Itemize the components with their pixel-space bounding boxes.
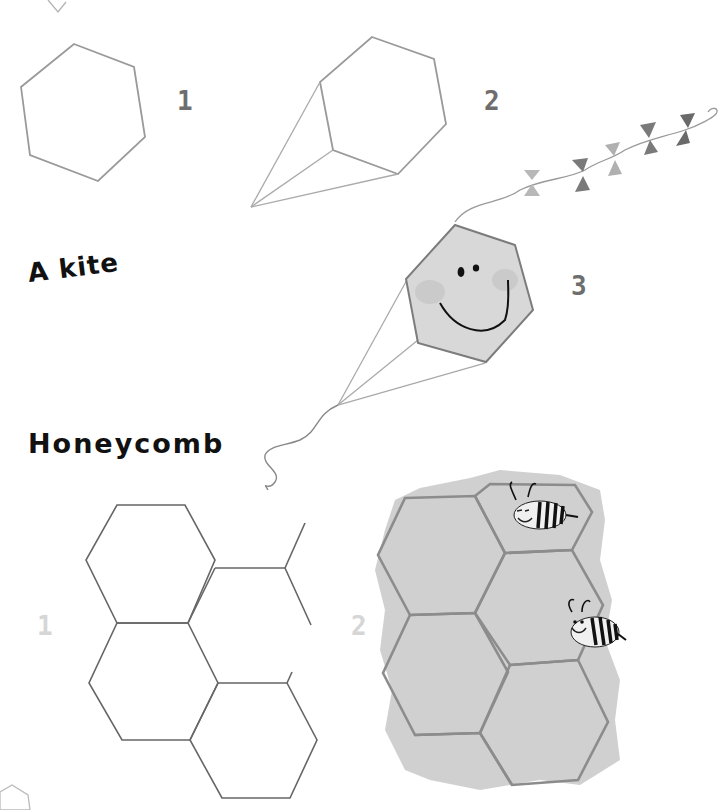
- partial-shape: [48, 0, 66, 12]
- honeycomb-step-1-number: 1: [37, 611, 53, 641]
- honeycomb-step2-watercolor: [375, 470, 626, 790]
- kite-step1-hexagon: [21, 44, 145, 181]
- kite-eye: [473, 264, 479, 271]
- honeycomb-step-2-number: 2: [351, 611, 367, 641]
- honeycomb-step1-grid: [86, 505, 317, 798]
- kite-step-2-number: 2: [484, 86, 500, 116]
- kite-eye: [458, 267, 465, 277]
- kite-step-3-number: 3: [571, 271, 587, 301]
- kite-step-1-number: 1: [177, 86, 193, 116]
- partial-hexagon: [0, 785, 30, 810]
- honeycomb-section-title: Honeycomb: [28, 428, 224, 459]
- kite-step2-drawing: [251, 37, 446, 207]
- tail-bow: [572, 158, 590, 192]
- illustration-canvas: [0, 0, 728, 810]
- kite-step3-drawing: [265, 108, 717, 490]
